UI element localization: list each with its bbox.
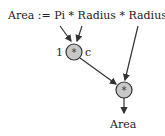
svg-text:*: *: [122, 85, 127, 96]
multiply-node-1: *: [66, 44, 82, 60]
edge-pi: [60, 26, 71, 41]
edge-node1-node2: [80, 58, 116, 84]
edge-radius1: [77, 26, 82, 41]
edge-radius2: [125, 26, 138, 80]
multiply-node-2: *: [116, 82, 132, 98]
svg-text:*: *: [72, 47, 77, 58]
dataflow-graph: * *: [0, 0, 165, 136]
